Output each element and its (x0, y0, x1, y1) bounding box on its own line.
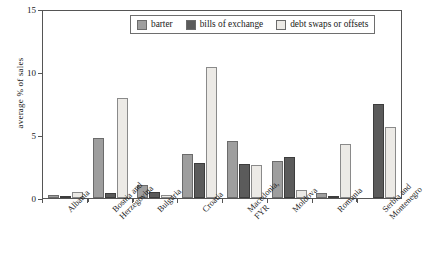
plot-area: 051015 (42, 10, 402, 199)
y-tick-label: 15 (15, 4, 36, 17)
x-axis-label-cell: Bosnia andHerzegovina (87, 201, 132, 275)
bar (194, 163, 205, 198)
bar (117, 98, 128, 198)
bar (206, 67, 217, 198)
bar-group (43, 11, 88, 198)
bar-group (133, 11, 178, 198)
x-axis-label-cell: Serbia andMontenegro (357, 201, 402, 275)
legend-swatch (186, 20, 196, 30)
y-tick-label: 10 (15, 67, 36, 80)
bar (328, 196, 339, 198)
legend-label: bills of exchange (200, 19, 264, 30)
bar (385, 127, 396, 198)
x-axis-label-cell: Moldova (267, 201, 312, 275)
bar (373, 104, 384, 199)
bar-group (267, 11, 312, 198)
bar-group (88, 11, 133, 198)
x-tick-mark (132, 199, 133, 203)
x-axis-label-cell: Romania (312, 201, 357, 275)
bar-group (356, 11, 401, 198)
bar (48, 195, 59, 198)
x-axis-label-cell: Macedonia,FYR (222, 201, 267, 275)
bar (340, 144, 351, 198)
bar (316, 193, 327, 198)
bar (105, 193, 116, 198)
legend-item: barter (137, 19, 173, 30)
bar (239, 164, 250, 198)
bar (60, 196, 71, 198)
legend-item: debt swaps or offsets (276, 19, 368, 30)
legend-swatch (276, 20, 286, 30)
legend-swatch (137, 20, 147, 30)
x-axis-label-cell: Albania (42, 201, 87, 275)
bar (227, 141, 238, 198)
legend-item: bills of exchange (186, 19, 264, 30)
legend-label: debt swaps or offsets (290, 19, 368, 30)
bar-groups (43, 11, 401, 198)
x-tick-mark (357, 199, 358, 203)
chart-legend: barterbills of exchangedebt swaps or off… (130, 15, 375, 34)
y-tick-label: 0 (15, 193, 36, 206)
bar-group (312, 11, 357, 198)
x-tick-mark (177, 199, 178, 203)
x-tick-mark (42, 199, 43, 203)
bar (182, 154, 193, 198)
x-axis-labels: AlbaniaBosnia andHerzegovinaBulgariaCroa… (42, 201, 402, 275)
bar (93, 138, 104, 198)
x-axis-label-cell: Croatia (177, 201, 222, 275)
x-tick-mark (222, 199, 223, 203)
x-tick-mark (312, 199, 313, 203)
bar-group (222, 11, 267, 198)
bar-group (177, 11, 222, 198)
x-axis-label-cell: Bulgaria (132, 201, 177, 275)
x-tick-mark (87, 199, 88, 203)
x-tick-mark (267, 199, 268, 203)
legend-label: barter (151, 19, 173, 30)
y-tick-label: 5 (15, 130, 36, 143)
